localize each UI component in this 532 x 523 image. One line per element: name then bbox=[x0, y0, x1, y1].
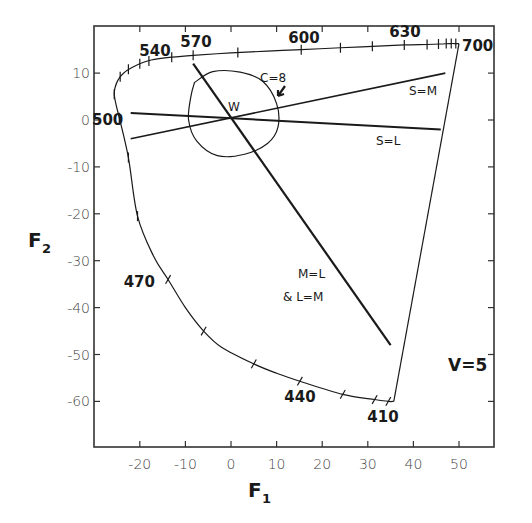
x-tick-label: 50 bbox=[450, 456, 468, 472]
chromaticity-chart: -20-1001020304050100-10-20-30-40-50-60 5… bbox=[0, 0, 532, 523]
s-equals-l-label: S=L bbox=[376, 134, 401, 148]
x-tick-label: 20 bbox=[313, 456, 331, 472]
m-equals-l-label: M=L bbox=[298, 267, 325, 281]
l-equals-m-label: & L=M bbox=[283, 290, 323, 304]
wavelength-label-440: 440 bbox=[284, 388, 315, 406]
x-tick-label: 0 bbox=[227, 456, 236, 472]
v-level-label: V=5 bbox=[448, 355, 487, 375]
contour-arrow-icon bbox=[278, 86, 285, 96]
wavelength-label-500: 500 bbox=[92, 111, 123, 129]
wavelength-label-540: 540 bbox=[139, 42, 170, 60]
wavelength-tick bbox=[251, 360, 256, 369]
wavelength-label-470: 470 bbox=[124, 273, 155, 291]
y-tick-label: 10 bbox=[72, 65, 90, 81]
y-tick-label: -10 bbox=[67, 159, 90, 175]
wavelength-tick bbox=[201, 327, 206, 336]
x-axis-title: F bbox=[248, 478, 262, 502]
y-tick-label: -40 bbox=[67, 300, 90, 316]
white-point-label: W bbox=[228, 100, 240, 114]
wavelength-label-630: 630 bbox=[389, 23, 420, 41]
x-tick-label: 10 bbox=[268, 456, 286, 472]
y-tick-label: -30 bbox=[67, 253, 90, 269]
y-tick-label: -20 bbox=[67, 206, 90, 222]
y-tick-label: -60 bbox=[67, 393, 90, 409]
s-l-line bbox=[131, 113, 441, 129]
wavelength-label-570: 570 bbox=[180, 33, 211, 51]
x-tick-label: -10 bbox=[174, 456, 197, 472]
y-axis-title: F bbox=[28, 228, 42, 252]
y-axis-subscript: 2 bbox=[42, 241, 51, 256]
y-tick-label: -50 bbox=[67, 347, 90, 363]
chart-series bbox=[114, 39, 459, 406]
contour-label: C=8 bbox=[260, 71, 286, 85]
x-tick-label: -20 bbox=[128, 456, 151, 472]
wavelength-label-600: 600 bbox=[288, 29, 319, 47]
y-tick-label: 0 bbox=[81, 112, 90, 128]
x-tick-label: 40 bbox=[404, 456, 422, 472]
chart-labels: 540570600630700500470440410WC=8S=MS=LM=L… bbox=[92, 23, 493, 426]
wavelength-label-410: 410 bbox=[367, 408, 398, 426]
s-m-line bbox=[131, 73, 446, 139]
spectral-locus-blue-line bbox=[119, 118, 394, 402]
x-axis-subscript: 1 bbox=[262, 491, 271, 506]
s-equals-m-label: S=M bbox=[409, 84, 437, 98]
x-tick-label: 30 bbox=[359, 456, 377, 472]
wavelength-label-700: 700 bbox=[462, 37, 493, 55]
